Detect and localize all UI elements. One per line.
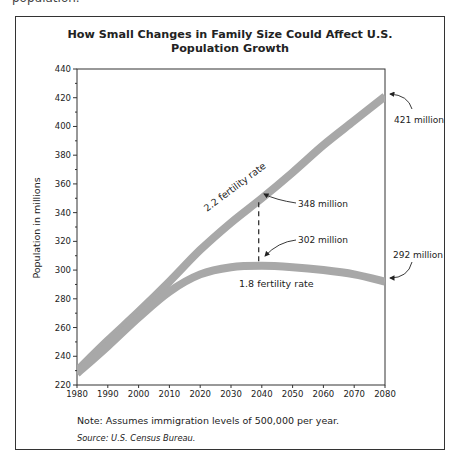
y-tick-label: 420 [55, 93, 71, 103]
chart-source: Source: U.S. Census Bureau. [77, 433, 196, 443]
annotation-302-million: 302 million [298, 235, 348, 245]
x-tick-label: 2070 [343, 389, 365, 399]
series-label-1-8: 1.8 fertility rate [239, 278, 314, 289]
y-tick-label: 360 [55, 179, 71, 189]
x-tick-label: 1990 [97, 389, 119, 399]
x-tick-label: 2060 [313, 389, 335, 399]
y-tick-label: 280 [55, 294, 71, 304]
x-tick-label: 2080 [374, 389, 396, 399]
annotation-348-million: 348 million [298, 199, 348, 209]
y-axis-label: Population in millions [31, 177, 42, 278]
x-tick-label: 2040 [251, 389, 273, 399]
x-tick-label: 2010 [159, 389, 181, 399]
annotation-421-million: 421 million [394, 115, 444, 125]
y-tick-label: 340 [55, 208, 71, 218]
arrow-302-icon [265, 240, 296, 256]
annotation-292-million: 292 million [393, 250, 443, 260]
chart-note: Note: Assumes immigration levels of 500,… [77, 415, 339, 426]
y-tick-label: 400 [55, 121, 71, 131]
x-tick-label: 2020 [189, 389, 211, 399]
arrow-421-icon [390, 94, 412, 109]
y-tick-label: 300 [55, 265, 71, 275]
arrow-292-icon [390, 262, 412, 278]
y-tick-label: 320 [55, 236, 71, 246]
y-tick-label: 260 [55, 323, 71, 333]
series-line-1-8-fertility [77, 266, 385, 374]
y-tick-label: 380 [55, 150, 71, 160]
y-tick-label: 240 [55, 351, 71, 361]
line-chart: 2202402602803003203403603804004204401980… [0, 0, 460, 465]
y-tick-label: 440 [55, 64, 71, 74]
x-tick-label: 2050 [282, 389, 304, 399]
x-tick-label: 1980 [66, 389, 88, 399]
x-tick-label: 2000 [128, 389, 150, 399]
x-tick-label: 2030 [220, 389, 242, 399]
